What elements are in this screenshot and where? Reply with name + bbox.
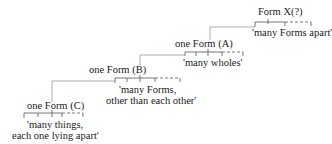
connector-a-b xyxy=(140,55,185,66)
node-gloss-c-line2: each one lying apart' xyxy=(12,130,99,141)
node-gloss-x: 'many Forms apart' xyxy=(252,27,332,38)
bracket-c xyxy=(24,110,83,118)
node-label-b: one Form (B) xyxy=(89,64,146,75)
node-gloss-c-line1: 'many things, xyxy=(27,119,83,130)
bracket-a xyxy=(185,49,243,56)
node-gloss-b-line2: other than each other' xyxy=(106,95,196,106)
node-gloss-a: 'many wholes' xyxy=(183,57,242,68)
node-label-x: Form X(?) xyxy=(258,6,303,17)
bracket-b xyxy=(115,75,180,83)
bracket-x xyxy=(255,19,311,27)
node-gloss-b-line1: 'many Forms, xyxy=(119,84,176,95)
node-label-c: one Form (C) xyxy=(27,100,84,111)
node-label-a: one Form (A) xyxy=(175,38,233,49)
